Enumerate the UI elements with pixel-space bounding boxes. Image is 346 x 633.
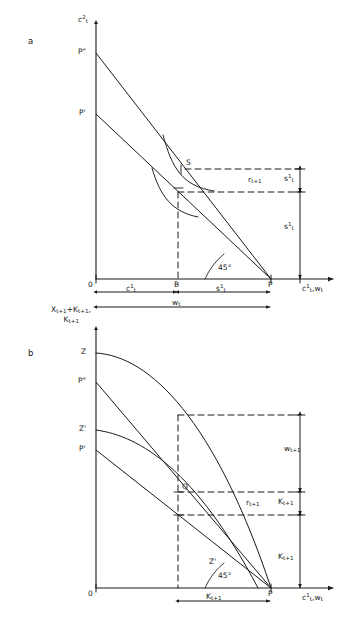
panel-a-label-point-p: P — [268, 281, 273, 289]
panel-b-label-z-prime: Z' — [79, 425, 86, 433]
panel-a-measure-s-upper-label: s1t — [284, 174, 294, 184]
panel-a-measure-r-label: rt+1 — [248, 176, 262, 185]
panel-a-label-p-double-prime: P" — [78, 48, 86, 56]
panel-b-label-p-prime: P' — [79, 445, 86, 453]
panel-b-measure-r-label: rt+1 — [246, 499, 260, 508]
panel-b-label-z-prime-inner: Z' — [209, 558, 216, 566]
panel-a-label-p-prime: P' — [79, 109, 86, 117]
panel-a-budget-line-steep — [96, 53, 271, 279]
panel-b-label-point-q: Q — [182, 483, 188, 491]
panel-a-origin-label: 0 — [88, 281, 93, 289]
panel-b-curve-z-prime — [96, 430, 258, 588]
panel-a-span-consumption-label: c1t — [126, 284, 136, 294]
panel-b-letter: b — [28, 349, 34, 358]
panel-a-span-wage-label: wt — [172, 299, 180, 308]
panel-b-label-z: Z — [81, 348, 86, 356]
panel-a-measure-s-lower-label: s1t — [284, 222, 294, 232]
panel-a-label-point-b: B — [174, 281, 179, 289]
panel-b-origin-label: 0 — [88, 590, 93, 598]
panel-b-measure-w-label: wt+1 — [284, 445, 301, 454]
panel-b-span-capital-label: Kt+1 — [206, 593, 221, 602]
panel-a-letter: a — [28, 37, 33, 46]
panel-b-angle-label: 45° — [218, 572, 232, 580]
panel-b-label-p-double-prime: P" — [78, 377, 86, 385]
panel-a-x-axis-label: c1t,wt — [302, 284, 323, 294]
panel-a-y-axis-label: c2t — [78, 15, 88, 25]
figure-canvas: a c2t P" P' S B P 0 45° rt+1 s1t s1t c1t… — [0, 0, 346, 633]
panel-b-label-point-p: P — [268, 590, 273, 598]
panel-b-measure-k-lower-label: Kt+1 — [278, 553, 293, 562]
panel-b-x-axis-label: c1t,wt — [302, 593, 323, 603]
panel-b-y-axis-label: Xt+1+Kt+1,Kt+1 — [33, 305, 91, 325]
panel-a-span-saving-label: s1t — [216, 284, 226, 294]
panel-a-budget-line-flat — [96, 114, 271, 279]
panel-a-angle-label: 45° — [218, 264, 232, 272]
panel-a-label-point-s: S — [186, 159, 191, 167]
panel-b-measure-k-upper-label: Kt+1 — [278, 498, 293, 507]
